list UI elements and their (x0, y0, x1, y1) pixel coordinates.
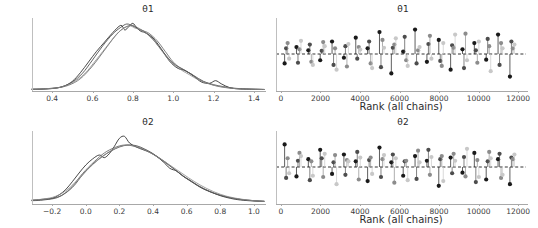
x-tick-label: 0.4 (46, 94, 58, 103)
rank-marker (320, 156, 324, 160)
rank-marker (489, 69, 493, 73)
rank-marker (428, 173, 432, 177)
x-tick-label: 0.8 (127, 94, 139, 103)
x-tick-mark (479, 204, 480, 206)
rank-marker (318, 58, 322, 62)
rank-marker (284, 176, 288, 180)
x-tick-mark (518, 91, 519, 93)
x-tick-label: 1.0 (167, 94, 179, 103)
rank-marker (472, 41, 476, 45)
rank-marker (321, 40, 325, 44)
rank-marker (355, 57, 359, 61)
kde-line (32, 145, 264, 201)
plot-area-rank-theta1 (276, 18, 526, 90)
rank-marker (401, 174, 405, 178)
mcmc-diagnostic-figure: θ1 0.40.60.81.01.21.4 θ1 020004000600080… (0, 0, 538, 228)
x-tick-label: 0.6 (87, 94, 99, 103)
rank-marker (416, 149, 420, 153)
x-tick-mark (187, 204, 188, 206)
rank-marker (417, 45, 421, 49)
rank-marker (489, 156, 493, 160)
rank-marker (428, 34, 432, 38)
rank-marker (367, 39, 371, 43)
rank-marker (465, 58, 469, 62)
rank-marker (499, 41, 503, 45)
rank-marker (294, 174, 298, 178)
x-tick-mark (86, 204, 87, 206)
plot-area-kde-theta2 (32, 131, 264, 203)
rank-marker (472, 151, 476, 155)
x-tick-mark (254, 91, 255, 93)
rank-marker (311, 174, 315, 178)
y-axis-spine-kde-theta2 (32, 131, 33, 204)
rank-marker (460, 171, 464, 175)
rank-marker (403, 35, 407, 39)
rank-marker (462, 155, 466, 159)
plot-area-kde-theta1 (32, 18, 264, 90)
panel-title-rank-theta2: θ2 (272, 117, 534, 128)
x-tick-mark (119, 204, 120, 206)
rank-marker (463, 174, 467, 178)
rank-marker (440, 64, 444, 68)
rank-marker (414, 61, 418, 65)
rank-marker (484, 58, 488, 62)
y-axis-spine-rank-theta1 (276, 18, 277, 91)
rank-marker (414, 177, 418, 181)
kde-curves-theta1 (32, 18, 264, 90)
rank-marker (311, 63, 315, 67)
x-axis-label-rank-theta2: Rank (all chains) (276, 214, 526, 226)
rank-marker (370, 172, 374, 176)
panel-rank-theta1: θ1 020004000600080001000012000 Rank (all… (272, 4, 534, 114)
kde-line (32, 24, 264, 89)
rank-marker (474, 48, 478, 52)
rank-marker (429, 155, 433, 159)
x-tick-mark (281, 204, 282, 206)
rank-marker (342, 152, 346, 156)
rank-marker (429, 57, 433, 61)
rank-marker (437, 38, 441, 42)
x-tick-mark (254, 204, 255, 206)
rank-marker (425, 60, 429, 64)
rank-marker (330, 39, 334, 43)
x-tick-label: 1.0 (248, 207, 260, 216)
x-tick-mark (52, 91, 53, 93)
x-tick-mark (320, 204, 321, 206)
rank-marker (299, 39, 303, 43)
rank-marker (406, 64, 410, 68)
rank-marker (392, 181, 396, 185)
plot-area-rank-theta2 (276, 131, 526, 203)
kde-line (32, 23, 264, 89)
rank-marker (389, 71, 393, 75)
rank-marker (286, 156, 290, 160)
x-tick-mark (479, 91, 480, 93)
rank-marker (508, 182, 512, 186)
rank-marker (391, 152, 395, 156)
rank-marker (296, 61, 300, 65)
rank-marker (379, 65, 383, 69)
x-tick-mark (214, 91, 215, 93)
rank-marker (500, 46, 504, 50)
rank-marker (477, 39, 481, 43)
x-ticks-kde-theta1: 0.40.60.81.01.21.4 (32, 91, 264, 109)
x-tick-mark (52, 204, 53, 206)
x-tick-mark (439, 91, 440, 93)
rank-marker (449, 68, 453, 72)
rank-marker (343, 173, 347, 177)
panel-kde-theta2: θ2 −0.20.00.20.40.60.81.0 (28, 117, 268, 221)
rank-marker (512, 43, 516, 47)
x-tick-label: 1.4 (248, 94, 260, 103)
x-axis-label-rank-theta1: Rank (all chains) (276, 101, 526, 113)
rank-marker (474, 180, 478, 184)
rank-marker (382, 153, 386, 157)
x-tick-label: 0.2 (113, 207, 125, 216)
rank-marker (308, 178, 312, 182)
x-tick-mark (281, 91, 282, 93)
rank-marker (370, 66, 374, 70)
x-tick-label: 1.2 (208, 94, 220, 103)
rank-marker (330, 172, 334, 176)
x-tick-mark (320, 91, 321, 93)
x-tick-mark (360, 91, 361, 93)
rank-marker (382, 46, 386, 50)
rank-marker (354, 36, 358, 40)
rank-marker (283, 61, 287, 65)
